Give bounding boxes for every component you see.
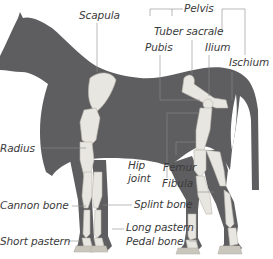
label-pubis: Pubis [145,42,173,53]
label-ilium: Ilium [205,42,230,53]
label-short-pastern: Short pastern [0,236,70,247]
label-pelvis: Pelvis [184,3,214,14]
label-scapula: Scapula [79,10,120,21]
label-radius: Radius [0,143,35,154]
label-splint-bone: Splint bone [134,199,192,210]
label-hip-joint-line1: Hip [128,160,145,171]
label-ischium: Ischium [229,57,269,68]
label-fibula: Fibula [162,178,193,189]
label-cannon-bone: Cannon bone [0,200,69,211]
label-pedal-bone: Pedal bone [126,236,183,247]
label-femur: Femur [163,162,196,173]
label-hip-joint-line2: joint [128,173,151,184]
label-long-pastern: Long pastern [126,222,194,233]
label-tuber-sacrale: Tuber sacrale [154,26,223,37]
horse-skeleton-diagram: Scapula Pelvis Tuber sacrale Pubis Ilium… [0,0,273,259]
